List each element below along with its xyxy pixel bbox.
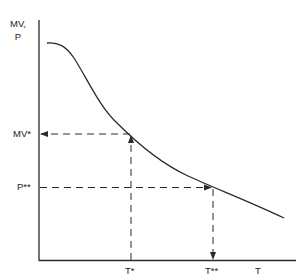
y-axis-label: MV, P — [6, 19, 30, 41]
t-star-label: T* — [125, 266, 135, 276]
diagram-canvas — [0, 0, 304, 276]
mv-curve — [47, 43, 284, 218]
mv-star-label: MV* — [13, 129, 31, 139]
t-double-star-label: T** — [205, 266, 218, 276]
y-axis-label-line2: P — [6, 32, 30, 42]
p-double-star-label: P** — [17, 182, 31, 192]
x-axis-label: T — [255, 266, 261, 276]
y-axis-label-line1: MV, — [6, 19, 30, 29]
